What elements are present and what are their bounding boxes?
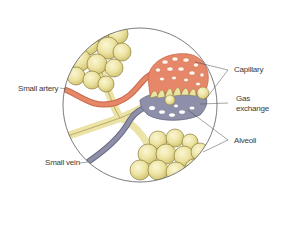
label-gas-exchange-line1: Gas	[236, 94, 250, 103]
label-gas-exchange-line2: exchange	[236, 104, 269, 113]
label-small-artery: Small artery	[18, 84, 58, 93]
label-alveoli: Alveoli	[234, 136, 256, 145]
label-capillary: Capillary	[234, 65, 263, 74]
label-small-vein: Small vein	[45, 158, 80, 167]
